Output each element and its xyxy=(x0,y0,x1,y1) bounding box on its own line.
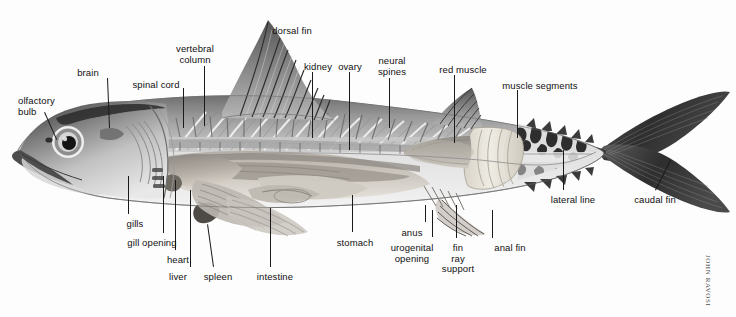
leader-line-ovary xyxy=(349,72,350,150)
label-dorsal-fin: dorsal fin xyxy=(232,26,352,37)
label-vertebral-column: vertebral column xyxy=(135,44,255,65)
label-gills: gills xyxy=(75,219,195,230)
label-heart: heart xyxy=(118,255,238,266)
leader-line-anal-fin xyxy=(492,210,493,238)
leader-line-vertebral-column xyxy=(204,66,205,126)
leader-line-intestine xyxy=(270,208,271,267)
olfactory-bulb-organ xyxy=(45,137,52,142)
label-red-muscle: red muscle xyxy=(403,65,523,76)
leader-line-spinal-cord xyxy=(183,88,184,128)
label-anus: anus xyxy=(352,228,472,239)
label-olfactory-bulb: olfactory bulb xyxy=(18,96,55,117)
leader-line-kidney xyxy=(312,72,313,138)
label-anal-fin: anal fin xyxy=(450,243,570,254)
leader-line-red-muscle xyxy=(454,75,455,143)
fish-anatomy-illustration xyxy=(0,0,736,317)
label-brain: brain xyxy=(28,68,148,79)
label-intestine: intestine xyxy=(215,272,335,283)
leader-line-anus xyxy=(425,205,426,222)
label-caudal-fin: caudal fin xyxy=(595,195,715,206)
label-muscle-segments: muscle segments xyxy=(480,81,600,92)
label-spinal-cord: spinal cord xyxy=(96,80,216,91)
leader-line-neural-spines xyxy=(389,78,390,128)
leader-line-lateral-line xyxy=(563,150,564,190)
fish-eye xyxy=(52,126,84,158)
label-gill-opening: gill opening xyxy=(92,238,212,249)
leader-line-muscle-segments xyxy=(517,90,518,138)
leader-line-gills xyxy=(128,176,129,214)
artist-credit: JOHN RAVOSI xyxy=(704,255,712,306)
leader-line-stomach xyxy=(352,195,353,232)
figure-canvas: olfactory bulbbrainspinal cordvertebral … xyxy=(0,0,736,317)
